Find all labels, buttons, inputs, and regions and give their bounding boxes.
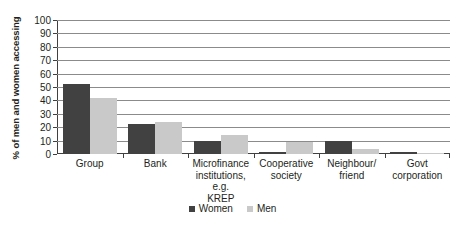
x-axis-category-label-line: friend [320,170,384,182]
y-axis-tick-label: 40 [40,95,51,106]
bar-men[interactable] [90,98,117,154]
x-axis-category-label: Microfinanceinstitutions, e.g.KREP [188,158,254,204]
legend-swatch-men-icon [247,206,253,212]
bar-men[interactable] [286,142,313,154]
bar-groups [57,20,450,154]
bar-group[interactable] [57,20,123,154]
plot-area: 1009080706050403020100 [57,20,450,154]
x-axis-category-label: Cooperativesociety [254,158,320,204]
bar-group[interactable] [254,20,320,154]
y-axis-tick-label: 20 [40,122,51,133]
bar-men[interactable] [155,122,182,154]
bar-women[interactable] [63,84,90,154]
bar-women[interactable] [259,152,286,154]
x-axis-category-label-line: Group [58,158,122,170]
x-axis-category-label-line: society [255,170,319,182]
x-axis-category-label-line: Bank [124,158,188,170]
x-axis-tick-labels: GroupBankMicrofinanceinstitutions, e.g.K… [57,158,450,204]
x-axis-category-label-line: Govt [386,158,450,170]
y-axis-tick-label: 60 [40,68,51,79]
x-axis-category-label-line: institutions, e.g. [189,170,253,193]
y-axis-tick-label: 0 [45,149,51,160]
x-axis-category-label-line: Neighbour/ [320,158,384,170]
bar-men[interactable] [352,149,379,154]
legend-label-women: Women [199,203,233,214]
legend-item-men: Men [247,203,276,214]
y-axis-tick-label: 100 [34,15,51,26]
chart-legend: Women Men [0,203,465,214]
legend-swatch-women-icon [189,206,195,212]
y-axis-tick-label: 90 [40,28,51,39]
x-axis-category-label: Govtcorporation [385,158,451,204]
y-axis-tick-label: 50 [40,82,51,93]
bar-women[interactable] [390,152,417,154]
bar-group[interactable] [319,20,385,154]
x-axis-category-label: Neighbour/friend [319,158,385,204]
bar-women[interactable] [325,141,352,154]
y-axis-tick-label: 80 [40,41,51,52]
bar-group[interactable] [188,20,254,154]
y-axis-title: % of men and women accessing [8,8,24,168]
y-axis-tick-label: 70 [40,55,51,66]
legend-item-women: Women [189,203,233,214]
bar-women[interactable] [194,141,221,154]
x-axis-category-label-line: Microfinance [189,158,253,170]
y-axis-tick-label: 30 [40,108,51,119]
y-axis-tick-mark [53,154,57,155]
bar-chart-figure: % of men and women accessing 10090807060… [0,0,465,231]
bar-men[interactable] [417,153,444,154]
x-axis-category-label-line: corporation [386,170,450,182]
x-axis-category-label: Bank [123,158,189,204]
y-axis-tick-label: 10 [40,135,51,146]
bar-women[interactable] [128,124,155,154]
x-axis-category-label: Group [57,158,123,204]
legend-label-men: Men [257,203,276,214]
bar-group[interactable] [123,20,189,154]
x-axis-category-label-line: Cooperative [255,158,319,170]
bar-group[interactable] [385,20,451,154]
bar-men[interactable] [221,135,248,154]
